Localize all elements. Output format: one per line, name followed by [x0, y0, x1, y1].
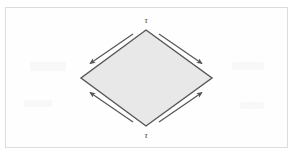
top-vertex-label: τ — [136, 16, 156, 25]
figure-root: τ τ — [0, 0, 294, 157]
rhombus-shape — [81, 30, 212, 126]
bottom-vertex-label: τ — [136, 131, 156, 140]
